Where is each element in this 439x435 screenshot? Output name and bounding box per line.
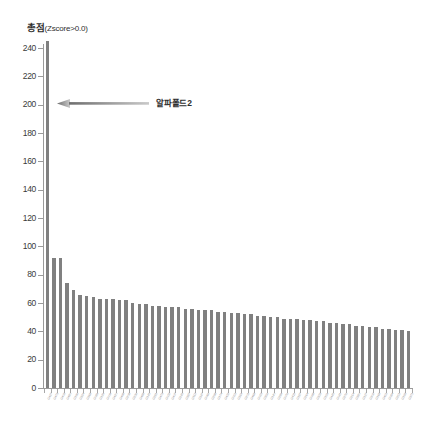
y-axis-label: 60	[6, 298, 36, 308]
bar	[249, 314, 253, 388]
y-axis-tick	[38, 133, 43, 134]
y-axis-label: 0	[6, 383, 36, 393]
x-axis-tick-label: G407	[171, 392, 178, 401]
bar	[368, 327, 372, 388]
y-axis-label: 80	[6, 269, 36, 279]
y-axis-label: 40	[6, 326, 36, 336]
x-axis-tick-label: G193	[401, 392, 408, 401]
bar	[138, 304, 142, 388]
x-axis-tick-label: G333	[315, 392, 322, 401]
x-axis-tick-label: G089	[92, 392, 99, 401]
x-axis-tick-label: G098	[309, 392, 316, 401]
bar	[289, 319, 293, 388]
bar	[170, 307, 174, 388]
y-axis-tick	[38, 105, 43, 106]
x-axis-tick-label: G324	[79, 392, 86, 401]
y-axis-tick	[38, 190, 43, 191]
y-axis-label: 20	[6, 354, 36, 364]
bar	[151, 306, 155, 388]
x-axis-tick-label: G420	[112, 392, 119, 401]
x-axis-tick-label: G201	[243, 392, 250, 401]
y-axis-tick	[38, 161, 43, 162]
bar	[46, 41, 50, 388]
x-axis-tick-label: G488	[138, 392, 145, 401]
x-axis-tick-label: G187	[296, 392, 303, 401]
bar	[92, 297, 96, 388]
left-arrow-icon	[57, 99, 149, 108]
x-axis-tick-label: G468	[250, 392, 257, 401]
bar	[276, 317, 280, 388]
x-axis-tick-label: G480	[66, 392, 73, 401]
x-axis-tick-label: G066	[204, 392, 211, 401]
x-axis-tick-label: G289	[276, 392, 283, 401]
bar	[361, 326, 365, 388]
x-axis-tick-label: G159	[322, 392, 329, 401]
x-axis-tick-label: G302	[368, 392, 375, 401]
x-axis-tick-label: G055	[230, 392, 237, 401]
x-axis-tick-label: G380	[355, 392, 362, 401]
bar-series	[44, 40, 412, 388]
bar	[157, 306, 161, 388]
bar	[144, 304, 148, 388]
bar	[315, 321, 319, 388]
bar	[78, 295, 82, 389]
bar	[328, 323, 332, 388]
x-axis-tick-label: G403	[59, 392, 66, 401]
x-axis-tick-label: G427	[46, 392, 53, 401]
y-axis-tick	[38, 218, 43, 219]
x-axis-tick-label: G208	[125, 392, 132, 401]
y-axis-tick	[38, 388, 43, 389]
bar	[210, 310, 214, 388]
bar	[105, 299, 109, 388]
bar	[256, 316, 260, 388]
y-axis-tick	[38, 360, 43, 361]
bar	[111, 299, 115, 388]
bar	[407, 331, 411, 388]
y-axis-tick	[38, 76, 43, 77]
bar	[184, 309, 188, 388]
y-axis-label: 240	[6, 43, 36, 53]
x-axis-tick-label: G368	[85, 392, 92, 401]
bar	[223, 312, 227, 389]
bar	[85, 296, 89, 388]
x-axis-tick-label: G127	[361, 392, 368, 401]
bar	[354, 326, 358, 388]
y-axis-label: 140	[6, 184, 36, 194]
bar	[98, 299, 102, 388]
bar	[381, 329, 385, 389]
bar	[197, 310, 201, 388]
bar	[302, 320, 306, 388]
bar	[230, 313, 234, 388]
x-axis-tick-label: G276	[342, 392, 349, 401]
y-axis-label: 100	[6, 241, 36, 251]
bar	[374, 327, 378, 388]
bar	[400, 330, 404, 388]
bar	[216, 312, 220, 389]
y-axis-label: 120	[6, 213, 36, 223]
bar	[262, 316, 266, 388]
x-axis-tick-labels: G427G473G403G480G196G324G368G089G129G009…	[44, 392, 412, 432]
x-axis-tick-label: G387	[184, 392, 191, 401]
x-axis-tick-label: G473	[158, 392, 165, 401]
bar	[118, 300, 122, 388]
x-axis-tick-label: G432	[223, 392, 230, 401]
x-axis-tick-label: G347	[197, 392, 204, 401]
x-axis-tick-label: G236	[131, 392, 138, 401]
x-axis-tick-label: G281	[151, 392, 158, 401]
bar	[59, 258, 63, 388]
bar	[387, 329, 391, 389]
chart-root: 총점(Zscore>0.0) 0204060801001201401601802…	[0, 0, 439, 435]
x-axis-tick-label: G140	[269, 392, 276, 401]
x-axis-tick-label: G455	[381, 392, 388, 401]
x-axis-tick-label: G174	[217, 392, 224, 401]
x-axis-tick-label: G041	[335, 392, 342, 401]
x-axis-tick-label: G009	[105, 392, 112, 401]
annotation-label: 알파폴드2	[156, 96, 192, 108]
bar	[295, 319, 299, 388]
bar	[322, 321, 326, 388]
bar	[308, 320, 312, 388]
y-axis-label: 220	[6, 71, 36, 81]
y-axis-labels: 020406080100120140160180200220240	[0, 0, 36, 435]
bar	[131, 303, 135, 388]
bar	[177, 307, 181, 388]
